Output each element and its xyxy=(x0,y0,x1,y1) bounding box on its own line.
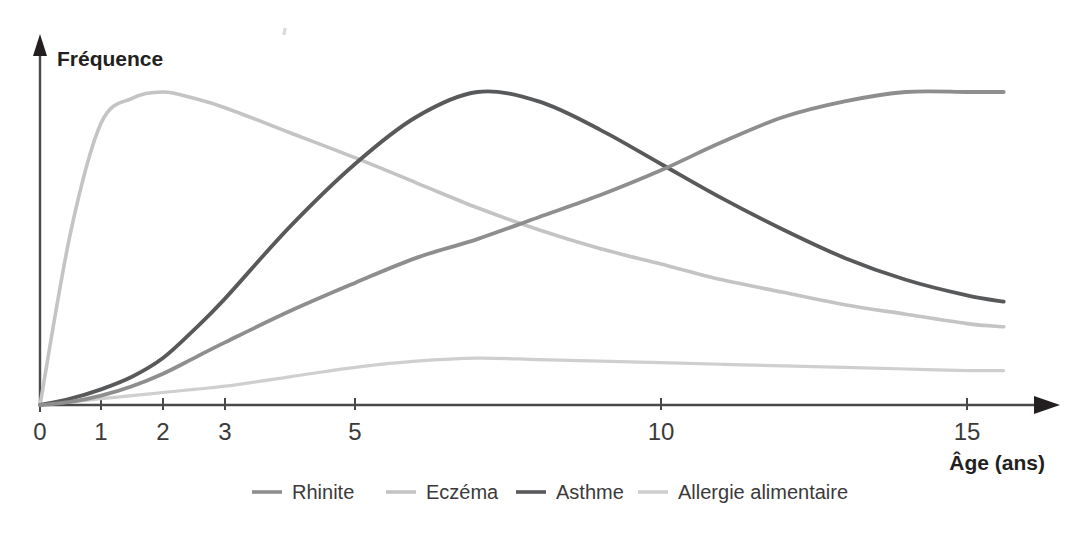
x-tick-label: 1 xyxy=(94,418,107,445)
y-axis-arrow xyxy=(33,34,47,56)
legend-item-rhinite: Rhinite xyxy=(252,481,354,503)
legend-item-allergie-alimentaire: Allergie alimentaire xyxy=(638,481,848,503)
legend-label: Asthme xyxy=(556,481,624,503)
x-axis xyxy=(40,396,1060,414)
legend-label: Rhinite xyxy=(292,481,354,503)
x-tick-label: 15 xyxy=(954,418,981,445)
x-tick-label: 5 xyxy=(348,418,361,445)
x-tick-label: 0 xyxy=(33,418,46,445)
chart-legend: Rhinite Eczéma Asthme Allergie alimentai… xyxy=(252,481,848,503)
legend-item-eczema: Eczéma xyxy=(386,481,499,503)
x-tick-label: 10 xyxy=(648,418,675,445)
y-axis xyxy=(33,34,47,405)
x-tick-label: 2 xyxy=(156,418,169,445)
chart-canvas: 0 1 2 3 5 10 15 Fréquence Âge (ans) Rh xyxy=(0,0,1082,538)
x-axis-arrow xyxy=(1034,396,1060,414)
y-axis-title: Fréquence xyxy=(57,47,163,70)
legend-label: Eczéma xyxy=(426,481,499,503)
curve-allergie-alimentaire xyxy=(40,358,1004,405)
x-tick-label: 3 xyxy=(218,418,231,445)
x-axis-title: Âge (ans) xyxy=(949,451,1045,474)
allergy-frequency-chart: 0 1 2 3 5 10 15 Fréquence Âge (ans) Rh xyxy=(0,0,1082,538)
legend-label: Allergie alimentaire xyxy=(678,481,848,503)
legend-item-asthme: Asthme xyxy=(516,481,624,503)
x-axis-tick-labels: 0 1 2 3 5 10 15 xyxy=(33,418,980,445)
